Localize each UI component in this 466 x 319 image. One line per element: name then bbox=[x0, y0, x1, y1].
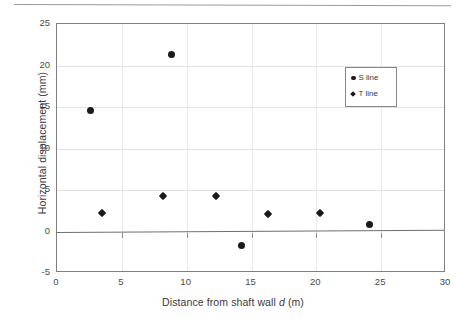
data-point bbox=[264, 210, 272, 218]
x-axis-tick-mark bbox=[381, 233, 382, 238]
x-axis-tick-label: 5 bbox=[106, 277, 136, 287]
diamond-marker-icon bbox=[350, 91, 356, 97]
x-axis-title-suffix: (m) bbox=[285, 296, 304, 308]
data-point bbox=[159, 192, 167, 200]
y-axis-tick-label: -5 bbox=[20, 267, 50, 277]
x-axis-tick-label: 25 bbox=[365, 277, 395, 287]
x-axis-tick-label: 30 bbox=[430, 277, 460, 287]
gridline-horizontal bbox=[57, 149, 444, 150]
x-axis-tick-mark bbox=[316, 233, 317, 238]
x-axis-tick-label: 0 bbox=[41, 277, 71, 287]
legend-item-s-line: S line bbox=[351, 74, 379, 82]
x-axis-tick-mark bbox=[187, 233, 188, 238]
legend-item-t-line: T line bbox=[351, 90, 378, 98]
legend-label-t-line: T line bbox=[359, 90, 378, 98]
gridline-horizontal bbox=[57, 107, 444, 108]
data-point bbox=[212, 192, 220, 200]
data-point bbox=[98, 209, 106, 217]
data-point bbox=[87, 107, 94, 114]
x-axis-tick-label: 20 bbox=[300, 277, 330, 287]
circle-marker-icon bbox=[351, 76, 356, 81]
chart-legend: S line T line bbox=[345, 67, 397, 107]
x-axis-tick-label: 10 bbox=[171, 277, 201, 287]
zero-axis-line bbox=[57, 229, 444, 232]
legend-label-s-line: S line bbox=[359, 74, 379, 82]
y-axis-title: Horizontal displacement (mm) bbox=[36, 23, 48, 263]
plot-area bbox=[56, 23, 445, 272]
x-axis-tick-mark bbox=[122, 233, 123, 238]
x-axis-title-prefix: Distance from shaft wall bbox=[162, 296, 279, 308]
data-point bbox=[168, 51, 175, 58]
scatter-chart-figure: 2520151050-5 051015202530 Horizontal dis… bbox=[0, 0, 466, 319]
data-point bbox=[238, 242, 245, 249]
x-axis-title: Distance from shaft wall d (m) bbox=[0, 296, 466, 308]
x-axis-tick-mark bbox=[252, 233, 253, 238]
data-point bbox=[366, 221, 373, 228]
x-axis-tick-label: 15 bbox=[236, 277, 266, 287]
gridline-horizontal bbox=[57, 190, 444, 191]
